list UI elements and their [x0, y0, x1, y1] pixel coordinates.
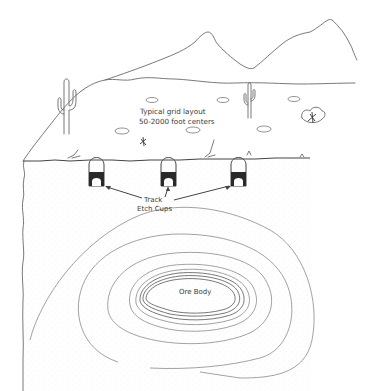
cactus-right: [244, 83, 255, 118]
grid-layout-label-line1: Typical grid layout: [139, 107, 206, 116]
cups-label-line1: Track: [143, 196, 163, 204]
grid-layout-label-line2: 50-2000 foot centers: [139, 117, 215, 126]
ore-body-label: Ore Body: [179, 288, 211, 296]
grass-tufts: [68, 140, 304, 158]
shrub-right: [302, 107, 325, 123]
cactus-left: [58, 79, 76, 134]
cups-label-line2: Etch Cups: [137, 205, 172, 213]
mountain-range: [105, 19, 357, 80]
shrub-small: [140, 137, 146, 146]
diagram-canvas: Typical grid layout 50-2000 foot centers…: [0, 0, 373, 391]
